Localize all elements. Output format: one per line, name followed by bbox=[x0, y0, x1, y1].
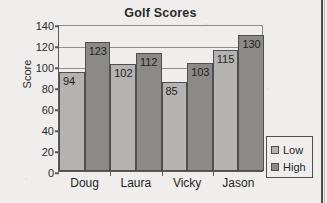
bar-doug-high: 123 bbox=[85, 42, 111, 171]
y-tick-label: 100 bbox=[36, 62, 54, 74]
y-tick-label: 40 bbox=[42, 125, 54, 137]
y-tick-mark bbox=[55, 25, 59, 27]
page-edge-line-secondary bbox=[324, 0, 325, 203]
bar-vicky-low: 85 bbox=[162, 82, 188, 171]
y-tick-label: 20 bbox=[42, 146, 54, 158]
bar-value-label: 103 bbox=[191, 67, 209, 79]
bar-jason-high: 130 bbox=[238, 35, 264, 172]
category-separator bbox=[110, 171, 111, 176]
bar-value-label: 123 bbox=[89, 46, 107, 58]
bar-value-label: 94 bbox=[63, 76, 75, 88]
y-tick-label: 80 bbox=[42, 83, 54, 95]
y-tick-label: 140 bbox=[36, 20, 54, 32]
plot-area: 020406080100120140 941231021128510311513… bbox=[58, 25, 263, 172]
bar-laura-high: 112 bbox=[136, 53, 162, 171]
category-label-vicky: Vicky bbox=[173, 176, 201, 190]
y-tick-label: 60 bbox=[42, 104, 54, 116]
legend-label: High bbox=[283, 161, 306, 173]
category-label-laura: Laura bbox=[121, 176, 152, 190]
bar-value-label: 130 bbox=[242, 39, 260, 51]
bar-jason-low: 115 bbox=[213, 50, 239, 171]
chart-title: Golf Scores bbox=[58, 6, 263, 20]
y-tick-label: 120 bbox=[36, 41, 54, 53]
category-separator bbox=[162, 171, 163, 176]
legend-item-high: High bbox=[271, 158, 312, 175]
y-axis-label: Score bbox=[21, 44, 33, 104]
legend-label: Low bbox=[283, 144, 303, 156]
chart-legend: LowHigh bbox=[266, 136, 313, 178]
y-tick-mark bbox=[55, 46, 59, 48]
bar-vicky-high: 103 bbox=[187, 63, 213, 171]
bar-doug-low: 94 bbox=[59, 72, 85, 171]
bar-value-label: 85 bbox=[166, 86, 178, 98]
category-separator bbox=[213, 171, 214, 176]
low-swatch-icon bbox=[271, 146, 279, 154]
category-label-doug: Doug bbox=[70, 176, 99, 190]
page-edge-line bbox=[321, 0, 323, 203]
chart-screenshot: Golf Scores Score 020406080100120140 941… bbox=[0, 0, 327, 203]
legend-item-low: Low bbox=[271, 141, 312, 158]
y-tick-label: 0 bbox=[48, 167, 54, 179]
bar-value-label: 115 bbox=[217, 54, 235, 66]
bar-value-label: 112 bbox=[140, 57, 158, 69]
y-tick-mark bbox=[55, 67, 59, 69]
high-swatch-icon bbox=[271, 163, 279, 171]
bar-value-label: 102 bbox=[114, 68, 132, 80]
category-label-jason: Jason bbox=[222, 176, 254, 190]
bar-laura-low: 102 bbox=[110, 64, 136, 171]
y-tick-mark bbox=[55, 172, 59, 174]
